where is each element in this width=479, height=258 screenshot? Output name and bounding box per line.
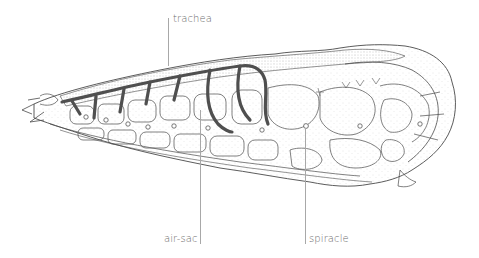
trachea-label: trachea: [173, 13, 212, 25]
larva-diagram: [0, 0, 479, 258]
spiracle-label: spiracle: [309, 233, 349, 245]
air-sac-label: air-sac: [164, 233, 198, 245]
trachea-leader-line: [168, 18, 169, 66]
spiracle-leader-line: [305, 128, 306, 244]
air-sac-leader-line: [200, 110, 201, 244]
